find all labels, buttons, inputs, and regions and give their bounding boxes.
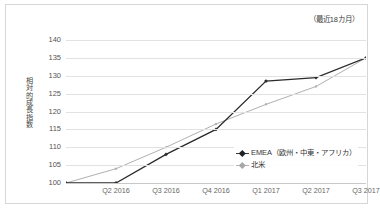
gridline [66, 76, 366, 77]
gridline [66, 129, 366, 130]
y-axis-tick-label: 120 [31, 108, 61, 116]
chart-frame: （最近18カ月） 相対的成長指数 14013513012512011511010… [5, 4, 368, 204]
diamond-marker-icon [236, 149, 249, 158]
y-axis-tick-label: 140 [31, 36, 61, 44]
diamond-marker-icon [236, 161, 249, 170]
x-axis-tick-label: Q4 2016 [202, 186, 230, 195]
data-point-marker [215, 123, 218, 126]
x-axis-tick-label: Q1 2017 [252, 186, 280, 195]
legend-label-north-america: 北米 [251, 159, 265, 171]
gridline [66, 94, 366, 95]
y-axis-tick-label: 125 [31, 90, 61, 98]
x-axis-tick-label: Q2 2017 [302, 186, 330, 195]
data-point-marker [265, 103, 268, 106]
y-axis-tick-labels: 140135130125120115110105100 [28, 40, 61, 183]
x-axis-line [66, 183, 366, 184]
gridline [66, 40, 366, 41]
legend-label-emea: EMEA（欧州・中東・アフリカ） [251, 147, 356, 159]
x-axis-tick-label: Q2 2016 [102, 186, 130, 195]
gridline [66, 112, 366, 113]
y-axis-tick-label: 100 [31, 179, 61, 187]
y-axis-tick-label: 105 [31, 161, 61, 169]
y-axis-tick-label: 115 [31, 125, 61, 133]
data-point-marker [115, 167, 118, 170]
y-axis-tick-label: 110 [31, 143, 61, 151]
chart-legend: EMEA（欧州・中東・アフリカ） 北米 [234, 146, 358, 172]
x-axis-tick-label: Q3 2016 [152, 186, 180, 195]
x-axis-tick-label: Q3 2017 [352, 186, 380, 195]
y-axis-tick-label: 135 [31, 54, 61, 62]
y-axis-tick-label: 130 [31, 72, 61, 80]
chart-annotation: （最近18カ月） [309, 13, 359, 24]
legend-item-north-america[interactable]: 北米 [236, 159, 356, 171]
legend-item-emea[interactable]: EMEA（欧州・中東・アフリカ） [236, 147, 356, 159]
x-axis-tick-labels: Q2 2016Q3 2016Q4 2016Q1 2017Q2 2017Q3 20… [66, 186, 366, 200]
gridline [66, 58, 366, 59]
